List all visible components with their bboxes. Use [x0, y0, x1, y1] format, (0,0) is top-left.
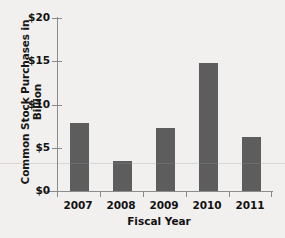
bar-2008 — [113, 161, 132, 191]
x-tick-label-2008: 2008 — [99, 199, 143, 211]
bar-2007 — [70, 123, 89, 191]
x-tick-label-2009: 2009 — [142, 199, 186, 211]
y-tick-label-5: $5 — [4, 141, 50, 153]
chart-title-clipped — [60, 0, 225, 2]
bar-2011 — [242, 137, 261, 191]
bar-series — [58, 17, 273, 191]
x-tick-label-2007: 2007 — [56, 199, 100, 211]
x-tick-label-2011: 2011 — [228, 199, 272, 211]
bar-2010 — [199, 63, 218, 191]
x-tick-4 — [229, 191, 230, 197]
bar-2009 — [156, 128, 175, 192]
x-tick-2 — [143, 191, 144, 197]
y-tick-label-15: $15 — [4, 54, 50, 66]
x-axis-line — [45, 191, 273, 192]
scan-artifact-line — [0, 163, 285, 164]
x-tick-5 — [271, 191, 272, 197]
y-tick-label-20: $20 — [4, 11, 50, 23]
x-tick-1 — [100, 191, 101, 197]
x-tick-label-2010: 2010 — [185, 199, 229, 211]
y-tick-label-0: $0 — [4, 184, 50, 196]
x-tick-3 — [186, 191, 187, 197]
y-tick-label-10: $10 — [4, 98, 50, 110]
bar-chart-figure: Common Stock Purchases in Billion $20 $1… — [0, 0, 285, 238]
x-tick-0 — [57, 191, 58, 197]
x-axis-title: Fiscal Year — [45, 215, 273, 227]
